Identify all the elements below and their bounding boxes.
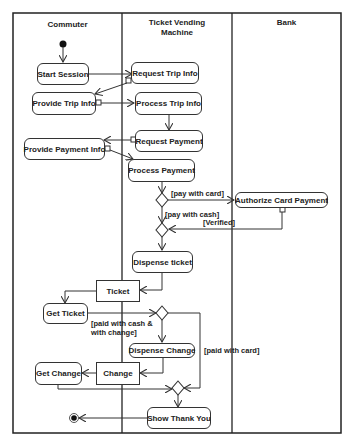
action-dispense-ticket[interactable]: Dispense ticket xyxy=(132,251,193,273)
action-get-ticket[interactable]: Get Ticket xyxy=(43,303,88,324)
guard-paid-with-cash-change-line1: [paid with cash & xyxy=(91,319,153,328)
object-ticket[interactable]: Ticket xyxy=(96,280,140,302)
lane-title-commuter: Commuter xyxy=(13,20,122,30)
action-process-trip-info[interactable]: Process Trip Info xyxy=(135,92,202,115)
action-provide-payment-info[interactable]: Provide Payment Info xyxy=(24,138,105,160)
guard-pay-with-card: [pay with card] xyxy=(171,189,224,198)
action-dispense-change[interactable]: Dispense Change xyxy=(129,343,195,358)
action-get-change[interactable]: Get Change xyxy=(35,362,82,385)
action-start-session[interactable]: Start Session xyxy=(37,63,89,85)
merge-node-end xyxy=(172,381,184,395)
object-change[interactable]: Change xyxy=(96,362,140,385)
decision-node-change xyxy=(156,306,168,320)
action-request-payment[interactable]: Request Payment xyxy=(135,130,203,152)
action-request-trip-info[interactable]: Request Trip Info xyxy=(131,62,199,84)
guard-paid-with-card: [paid with card] xyxy=(204,346,259,355)
guard-paid-with-cash-change-line2: with change] xyxy=(91,328,137,337)
lane-title-tvm: Ticket Vending Machine xyxy=(122,18,232,38)
decision-node-payment xyxy=(156,193,168,207)
final-node xyxy=(71,415,77,421)
action-authorize-card-payment[interactable]: Authorize Card Payment xyxy=(235,192,328,208)
initial-node xyxy=(60,41,67,48)
action-process-payment[interactable]: Process Payment xyxy=(128,159,195,182)
lane-title-bank: Bank xyxy=(232,18,341,28)
action-show-thank-you[interactable]: Show Thank You xyxy=(147,407,211,429)
guard-verified: [Verified] xyxy=(203,218,235,227)
merge-node-payment xyxy=(156,223,168,237)
action-provide-trip-info[interactable]: Provide Trip Info xyxy=(32,92,96,115)
